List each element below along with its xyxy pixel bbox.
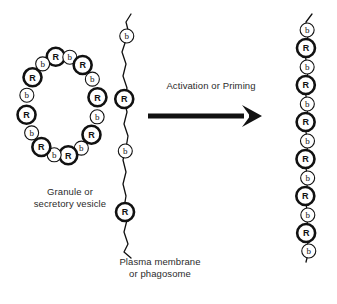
receptor-glyph: R bbox=[121, 94, 128, 104]
receptor-node: R bbox=[297, 39, 315, 57]
bound-node: b bbox=[120, 29, 134, 43]
bound-node: b bbox=[118, 144, 132, 158]
bound-glyph: b bbox=[307, 246, 312, 256]
granule-ring-group: RbRbRbRbRbRbRbRb bbox=[18, 48, 107, 164]
activated-membrane-nodes: bRbRbRbRbRbRb bbox=[296, 23, 315, 258]
receptor-node: R bbox=[297, 76, 315, 94]
bound-glyph: b bbox=[305, 99, 310, 109]
bound-node: b bbox=[300, 134, 314, 148]
bound-node: b bbox=[20, 88, 34, 102]
receptor-node: R bbox=[59, 146, 77, 164]
bound-node: b bbox=[300, 97, 314, 111]
arrow-head bbox=[242, 105, 262, 127]
arrow-shaft bbox=[148, 114, 244, 119]
receptor-glyph: R bbox=[302, 117, 309, 127]
receptor-glyph: R bbox=[303, 43, 310, 53]
granule-label: Granule or secretory vesicle bbox=[0, 186, 140, 210]
bound-node: b bbox=[36, 57, 50, 71]
bound-glyph: b bbox=[52, 150, 57, 160]
bound-glyph: b bbox=[40, 59, 45, 69]
receptor-glyph: R bbox=[94, 93, 101, 103]
bound-node: b bbox=[302, 244, 316, 258]
bound-glyph: b bbox=[305, 62, 310, 72]
receptor-node: R bbox=[296, 150, 314, 168]
receptor-node: R bbox=[297, 224, 315, 242]
bound-glyph: b bbox=[125, 31, 130, 41]
bound-glyph: b bbox=[68, 52, 73, 62]
receptor-node: R bbox=[18, 106, 36, 124]
bound-glyph: b bbox=[305, 136, 310, 146]
receptor-glyph: R bbox=[302, 154, 309, 164]
plasma-membrane-label: Plasma membrane or phagosome bbox=[78, 256, 242, 280]
bound-glyph: b bbox=[79, 143, 84, 153]
receptor-node: R bbox=[296, 187, 314, 205]
bound-node: b bbox=[301, 208, 315, 222]
bound-glyph: b bbox=[25, 90, 30, 100]
receptor-glyph: R bbox=[303, 80, 310, 90]
receptor-glyph: R bbox=[38, 142, 45, 152]
plasma-membrane-group: bRbR bbox=[115, 14, 134, 258]
receptor-glyph: R bbox=[79, 60, 86, 70]
bound-glyph: b bbox=[123, 146, 128, 156]
diagram-canvas: RbRbRbRbRbRbRbRb bRbR bRbRbRbRbRbRb Gran… bbox=[0, 0, 337, 304]
receptor-glyph: R bbox=[52, 52, 59, 62]
receptor-glyph: R bbox=[88, 130, 95, 140]
bound-node: b bbox=[300, 60, 314, 74]
receptor-node: R bbox=[24, 68, 42, 86]
bound-node: b bbox=[301, 171, 315, 185]
receptor-node: R bbox=[88, 88, 106, 106]
bound-glyph: b bbox=[305, 25, 310, 35]
receptor-node: R bbox=[74, 56, 92, 74]
bound-node: b bbox=[85, 72, 99, 86]
receptor-glyph: R bbox=[65, 151, 72, 161]
bound-node: b bbox=[90, 110, 104, 124]
receptor-node: R bbox=[297, 113, 315, 131]
receptor-node: R bbox=[32, 138, 50, 156]
bound-node: b bbox=[25, 126, 39, 140]
bound-glyph: b bbox=[29, 128, 34, 138]
receptor-node: R bbox=[115, 90, 133, 108]
bound-glyph: b bbox=[305, 173, 310, 183]
bound-glyph: b bbox=[95, 112, 100, 122]
activated-membrane-group: bRbRbRbRbRbRb bbox=[296, 14, 315, 262]
activation-arrow-icon bbox=[148, 105, 262, 127]
receptor-glyph: R bbox=[29, 73, 36, 83]
receptor-glyph: R bbox=[302, 191, 309, 201]
receptor-node: R bbox=[82, 126, 100, 144]
activation-arrow-label: Activation or Priming bbox=[142, 80, 280, 92]
bound-glyph: b bbox=[90, 74, 95, 84]
receptor-glyph: R bbox=[303, 228, 310, 238]
receptor-glyph: R bbox=[23, 110, 30, 120]
bound-glyph: b bbox=[306, 210, 311, 220]
bound-node: b bbox=[300, 23, 314, 37]
